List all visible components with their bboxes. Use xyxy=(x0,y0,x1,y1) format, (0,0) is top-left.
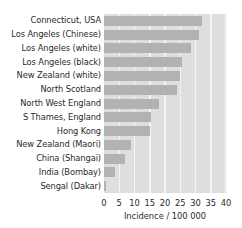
category-label: New Zealand (Maori) xyxy=(16,138,101,151)
bar xyxy=(104,43,191,53)
x-tick-label: 30 xyxy=(190,198,201,208)
bar xyxy=(104,167,115,177)
x-tick-label: 15 xyxy=(144,198,155,208)
bar xyxy=(104,154,125,164)
category-label: Los Angeles (Chinese) xyxy=(11,28,101,41)
category-label: Los Angeles (black) xyxy=(22,56,101,69)
bar xyxy=(104,181,106,191)
category-label: Los Angeles (white) xyxy=(22,42,101,55)
gridline xyxy=(195,14,197,193)
gridline xyxy=(164,14,166,193)
category-label: S Thames, England xyxy=(23,111,101,124)
category-label: New Zealand (white) xyxy=(17,69,101,82)
bar xyxy=(104,112,151,122)
bar xyxy=(104,71,180,81)
bar xyxy=(104,140,131,150)
horizontal-bar-chart: Connecticut, USALos Angeles (Chinese)Los… xyxy=(0,0,242,228)
bar xyxy=(104,126,150,136)
x-tick-label: 5 xyxy=(117,198,122,208)
x-tick-label: 20 xyxy=(160,198,171,208)
category-label: China (Shangai) xyxy=(36,152,101,165)
category-label: India (Bombay) xyxy=(39,166,101,179)
gridline xyxy=(225,14,227,193)
x-tick-label: 35 xyxy=(205,198,216,208)
x-tick-label: 0 xyxy=(101,198,106,208)
bar xyxy=(104,16,202,26)
bar xyxy=(104,85,177,95)
category-label: Sengal (Dakar) xyxy=(40,180,101,193)
gridline xyxy=(210,14,212,193)
x-tick-label: 10 xyxy=(129,198,140,208)
category-label: Hong Kong xyxy=(57,125,101,138)
x-tick-label: 25 xyxy=(175,198,186,208)
gridline xyxy=(180,14,182,193)
plot-area xyxy=(104,14,226,193)
bar xyxy=(104,57,182,67)
category-label: North West England xyxy=(20,97,101,110)
x-axis-label: Incidence / 100 000 xyxy=(104,211,226,221)
bar xyxy=(104,30,199,40)
category-label: Connecticut, USA xyxy=(30,14,101,27)
x-tick-label: 40 xyxy=(221,198,232,208)
bar xyxy=(104,99,159,109)
category-label: North Scotland xyxy=(40,83,101,96)
